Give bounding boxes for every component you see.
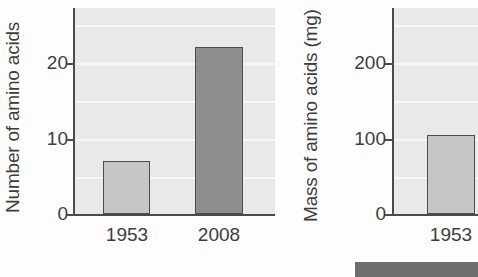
y-tick-label: 100 xyxy=(354,128,386,150)
y-tick-mark xyxy=(66,214,73,216)
gridline xyxy=(394,101,478,103)
plot-area xyxy=(75,8,275,214)
chart-number-of-amino-acids: Number of amino acids 20 10 0 1953 2008 xyxy=(0,0,300,277)
y-axis-line xyxy=(392,8,394,216)
y-tick-mark xyxy=(66,63,73,65)
x-tick-label-1953: 1953 xyxy=(106,224,148,246)
bar-2008 xyxy=(195,47,243,214)
y-axis-title: Number of amino acids xyxy=(2,8,24,226)
gridline xyxy=(75,101,275,103)
bottom-strip xyxy=(355,262,478,277)
y-tick-mark xyxy=(66,139,73,141)
y-axis-line xyxy=(73,8,75,216)
gridline xyxy=(75,25,275,27)
x-tick-label-2008: 2008 xyxy=(198,224,240,246)
y-tick-mark xyxy=(385,139,392,141)
y-axis-title: Mass of amino acids (mg) xyxy=(300,2,322,230)
y-axis-tick-labels: 20 10 0 xyxy=(22,0,68,230)
x-axis-line xyxy=(392,214,478,216)
x-axis-line xyxy=(73,214,275,216)
y-tick-label: 20 xyxy=(47,52,68,74)
plot-area xyxy=(394,8,478,214)
y-tick-mark xyxy=(385,214,392,216)
gridline xyxy=(394,63,478,65)
gridline xyxy=(75,139,275,141)
x-tick-label-1953: 1953 xyxy=(430,224,472,246)
y-tick-label: 10 xyxy=(47,128,68,150)
y-axis-tick-labels: 200 100 0 xyxy=(340,0,386,230)
bar-1953 xyxy=(427,135,475,214)
bar-1953 xyxy=(103,161,150,214)
y-tick-label: 200 xyxy=(354,52,386,74)
y-tick-mark xyxy=(385,63,392,65)
gridline xyxy=(394,25,478,27)
gridline xyxy=(75,63,275,65)
